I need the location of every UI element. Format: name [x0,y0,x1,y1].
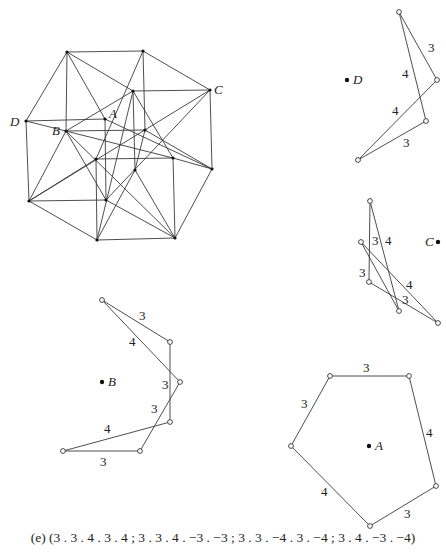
polytope-vertex [143,128,146,131]
vertex-figure-node [61,449,66,454]
edge-length-label: 4 [385,233,392,248]
vertex-figure-edge [358,121,426,160]
center-label-b: B [108,374,116,389]
polytope-edge [210,90,212,169]
vertex-figure-c: 34433C [359,199,441,326]
polytope-edge [96,159,97,240]
vertex-figure-node [367,280,372,285]
vertex-figure-d: 3434D [345,10,440,163]
center-label-a: A [374,438,383,453]
center-label-d: D [352,72,363,87]
polytope-vertex [171,156,174,159]
polytope-edge [67,52,133,91]
edge-length-label: 3 [402,292,409,307]
polytope-edge [145,130,212,169]
edge-length-label: 4 [321,484,328,499]
polytope-edge [67,52,105,119]
polytope-edge [96,158,173,159]
polytope-edge [106,200,175,238]
polytope-edge [29,201,97,240]
polytope-edge [66,52,67,131]
vertex-figure-node [359,240,364,245]
vertex-figure-node [356,158,361,163]
vertex-figure-a: 34343A [289,360,439,528]
polytope-edge [105,119,106,200]
polytope-edge [66,130,145,131]
polytope-vertex [64,129,67,132]
vertex-label-a: A [108,106,117,121]
edge-length-label: 3 [363,360,370,375]
edge-length-label: 3 [403,135,410,150]
polytope-vertex [24,119,27,122]
center-dot [436,240,440,244]
edge-length-label: 4 [406,277,413,292]
center-dot [100,380,104,384]
vertex-figure-node [434,484,439,489]
edge-length-label: 3 [100,454,107,469]
edge-length-label: 3 [359,265,366,280]
edge-length-label: 3 [162,377,169,392]
polytope-edge [97,238,175,240]
polytope-edge [29,159,96,201]
vertex-label-d: D [9,114,20,129]
vertex-figure-node [407,374,412,379]
polytope-vertex [141,49,144,52]
polytope-edge [26,52,67,121]
vertex-figure-edge [369,201,370,282]
vertex-figure-node [289,444,294,449]
vertex-figure-node [168,340,173,345]
vertex-label-b: B [52,123,60,138]
polytope-vertex [210,167,213,170]
polytope-edge [29,131,66,201]
polytope-vertex [133,168,136,171]
figure-caption: (e) (3 . 3 . 4 . 3 . 4 ; 3 . 3 . 4 . −3 … [0,530,446,546]
vertex-figure-edge [140,382,180,451]
polytope-vertex [104,198,107,201]
polytope-vertex [94,157,97,160]
vertex-label-c: C [214,82,223,97]
polytope-edge [67,51,143,52]
polytope-vertex [131,89,134,92]
polytope-edge [66,131,175,238]
figure-canvas: DABC 3434D34433C343343B34343A [0,0,446,556]
center-dot [345,78,349,82]
polytope-edge [29,200,106,201]
vertex-figure-node [436,321,441,326]
vertex-figure-edge [291,446,370,526]
edge-length-label: 4 [426,425,433,440]
polytope-vertex [103,117,106,120]
polytope-edge [175,169,212,238]
vertex-figure-node [100,298,105,303]
center-label-c: C [425,234,434,249]
polytope-vertex [208,88,211,91]
polytope-edge [26,121,29,201]
polytope-edge [96,51,143,159]
vertex-figure-node [397,309,402,314]
edge-length-label: 3 [139,308,146,323]
polytope-vertex [27,199,30,202]
polytope-edge [133,90,210,91]
vertex-figure-edge [291,376,330,446]
polytope-vertex [65,50,68,53]
vertex-figure-node [168,420,173,425]
vertex-figure-node [368,199,373,204]
vertex-figure-node [424,119,429,124]
vertex-figure-edge [63,422,170,451]
vertex-figure-node [138,449,143,454]
edge-length-label: 4 [402,66,409,81]
edge-length-label: 3 [404,506,411,521]
edge-length-label: 4 [104,421,111,436]
edge-length-label: 4 [392,103,399,118]
vertex-figure-node [178,380,183,385]
vertex-figure-edge [370,486,436,526]
edge-length-label: 3 [301,396,308,411]
vertex-figure-node [328,374,333,379]
polytope-vertex [173,236,176,239]
polytope-vertex [95,238,98,241]
polytope-edge [173,158,175,238]
vertex-figure-b: 343343B [61,298,183,469]
polytope-edge [26,119,105,121]
polytope-edge [143,51,210,90]
vertex-figure-node [397,10,402,15]
polytope-projection: DABC [9,49,223,241]
